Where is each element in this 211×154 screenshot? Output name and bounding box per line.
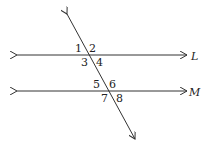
transversal	[67, 14, 135, 139]
angle-7-label: 7	[101, 92, 108, 105]
angle-5-label: 5	[93, 78, 100, 91]
angle-4-label: 4	[96, 56, 103, 69]
angle-1-label: 1	[75, 42, 82, 55]
angle-8-label: 8	[116, 92, 123, 105]
angle-6-label: 6	[109, 78, 116, 91]
line-m-label: M	[188, 86, 201, 99]
parallel-lines-diagram: L M 1 2 3 4 5 6 7 8	[0, 0, 211, 154]
angle-3-label: 3	[81, 56, 88, 69]
angle-2-label: 2	[89, 42, 96, 55]
line-l-label: L	[190, 50, 198, 63]
